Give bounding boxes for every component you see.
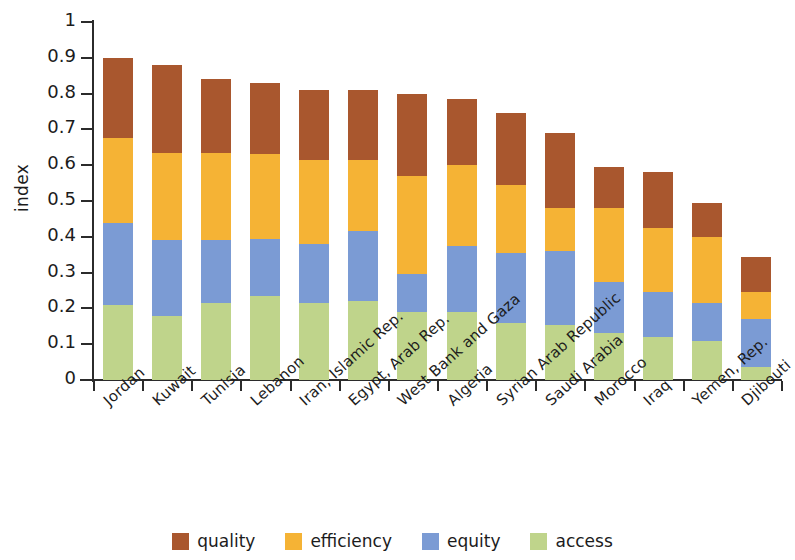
bar-segment-equity[interactable]: [447, 246, 477, 312]
legend-label: quality: [197, 531, 255, 551]
bar-lebanon[interactable]: [250, 83, 280, 380]
bar-segment-efficiency[interactable]: [201, 153, 231, 241]
x-tick-mark: [437, 381, 439, 391]
bar-segment-efficiency[interactable]: [447, 165, 477, 246]
y-tick-mark: [81, 21, 93, 23]
x-tick-mark: [732, 381, 734, 391]
y-tick-mark: [81, 93, 93, 95]
y-tick-label: 0.1: [6, 331, 76, 352]
bar-segment-efficiency[interactable]: [643, 228, 673, 292]
bar-tunisia[interactable]: [201, 79, 231, 380]
bar-jordan[interactable]: [103, 58, 133, 380]
legend-item-quality[interactable]: quality: [172, 531, 255, 551]
x-tick-mark: [634, 381, 636, 391]
bar-segment-quality[interactable]: [545, 133, 575, 208]
bar-segment-quality[interactable]: [397, 94, 427, 176]
x-tick-mark: [781, 381, 783, 391]
bar-segment-efficiency[interactable]: [496, 185, 526, 253]
bar-segment-quality[interactable]: [496, 113, 526, 185]
bar-segment-efficiency[interactable]: [741, 292, 771, 319]
bar-yemen-rep[interactable]: [692, 203, 722, 380]
y-tick-mark: [81, 200, 93, 202]
bar-kuwait[interactable]: [152, 65, 182, 380]
bar-segment-quality[interactable]: [741, 257, 771, 293]
y-tick-label: 0.7: [6, 116, 76, 137]
legend-swatch-icon: [530, 533, 547, 550]
legend-item-equity[interactable]: equity: [422, 531, 500, 551]
legend-swatch-icon: [172, 533, 189, 550]
bar-segment-equity[interactable]: [299, 244, 329, 303]
y-tick-mark: [81, 307, 93, 309]
bar-syrian-arab-republic[interactable]: [496, 113, 526, 380]
x-tick-mark: [486, 381, 488, 391]
x-tick-mark: [683, 381, 685, 391]
y-tick-mark: [81, 343, 93, 345]
bar-segment-equity[interactable]: [545, 251, 575, 324]
legend-swatch-icon: [285, 533, 302, 550]
y-tick-label: 0.2: [6, 295, 76, 316]
y-tick-label: 0: [6, 367, 76, 388]
bar-segment-equity[interactable]: [397, 274, 427, 312]
bar-segment-quality[interactable]: [250, 83, 280, 155]
x-tick-mark: [142, 381, 144, 391]
bar-segment-quality[interactable]: [103, 58, 133, 139]
bar-segment-efficiency[interactable]: [250, 154, 280, 238]
bar-segment-equity[interactable]: [348, 231, 378, 301]
bar-segment-quality[interactable]: [447, 99, 477, 165]
legend-label: efficiency: [310, 531, 392, 551]
bar-segment-efficiency[interactable]: [397, 176, 427, 274]
bar-segment-quality[interactable]: [594, 167, 624, 208]
x-tick-mark: [93, 381, 95, 391]
bar-segment-efficiency[interactable]: [299, 160, 329, 244]
bar-segment-equity[interactable]: [250, 239, 280, 296]
bar-segment-equity[interactable]: [152, 240, 182, 315]
x-tick-mark: [339, 381, 341, 391]
chart-legend: qualityefficiencyequityaccess: [0, 531, 785, 551]
x-tick-mark: [388, 381, 390, 391]
x-tick-mark: [240, 381, 242, 391]
bar-segment-access[interactable]: [201, 303, 231, 380]
bar-segment-equity[interactable]: [643, 292, 673, 337]
y-tick-label: 0.6: [6, 152, 76, 173]
bar-segment-efficiency[interactable]: [103, 138, 133, 222]
bar-segment-quality[interactable]: [348, 90, 378, 160]
bar-segment-equity[interactable]: [201, 240, 231, 303]
bar-segment-quality[interactable]: [299, 90, 329, 160]
y-tick-mark: [81, 236, 93, 238]
y-tick-label: 0.5: [6, 188, 76, 209]
y-tick-label: 0.4: [6, 224, 76, 245]
y-tick-mark: [81, 128, 93, 130]
bar-segment-efficiency[interactable]: [594, 208, 624, 281]
bar-segment-access[interactable]: [643, 337, 673, 380]
bar-segment-access[interactable]: [250, 296, 280, 380]
x-tick-mark: [290, 381, 292, 391]
y-tick-mark: [81, 379, 93, 381]
bar-iraq[interactable]: [643, 172, 673, 380]
y-tick-mark: [81, 164, 93, 166]
bar-segment-quality[interactable]: [201, 79, 231, 152]
legend-label: equity: [447, 531, 500, 551]
x-tick-mark: [191, 381, 193, 391]
y-tick-mark: [81, 57, 93, 59]
bar-segment-efficiency[interactable]: [545, 208, 575, 251]
bar-segment-quality[interactable]: [152, 65, 182, 153]
bar-segment-quality[interactable]: [643, 172, 673, 227]
bar-segment-equity[interactable]: [692, 303, 722, 341]
y-tick-label: 0.8: [6, 81, 76, 102]
y-tick-label: 0.3: [6, 260, 76, 281]
legend-item-efficiency[interactable]: efficiency: [285, 531, 392, 551]
x-tick-mark: [535, 381, 537, 391]
bar-segment-access[interactable]: [103, 305, 133, 380]
bar-segment-efficiency[interactable]: [692, 237, 722, 303]
legend-swatch-icon: [422, 533, 439, 550]
y-tick-label: 0.9: [6, 45, 76, 66]
legend-item-access[interactable]: access: [530, 531, 612, 551]
bar-segment-efficiency[interactable]: [348, 160, 378, 232]
bar-segment-equity[interactable]: [103, 223, 133, 305]
y-tick-label: 1: [6, 9, 76, 30]
bar-segment-quality[interactable]: [692, 203, 722, 237]
bar-iran-islamic-rep[interactable]: [299, 90, 329, 380]
x-tick-mark: [584, 381, 586, 391]
bar-segment-efficiency[interactable]: [152, 153, 182, 241]
